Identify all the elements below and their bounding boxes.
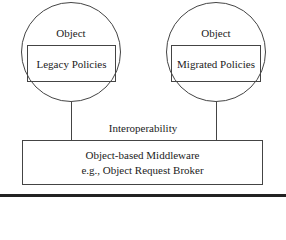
legacy-policies-box: Legacy Policies [27,45,116,82]
interoperability-label: Interoperability [80,122,206,134]
middleware-line2: e.g., Object Request Broker [81,163,203,178]
right-connector-line [216,102,217,141]
left-object-title: Object [21,27,121,39]
middleware-box: Object-based Middleware e.g., Object Req… [22,140,263,185]
legacy-policies-label: Legacy Policies [37,58,107,70]
left-connector-line [71,102,72,141]
migrated-policies-label: Migrated Policies [177,58,255,70]
right-object-title: Object [166,27,266,39]
migrated-policies-box: Migrated Policies [171,45,261,82]
middleware-line1: Object-based Middleware [86,148,200,163]
bottom-rule [0,194,286,197]
